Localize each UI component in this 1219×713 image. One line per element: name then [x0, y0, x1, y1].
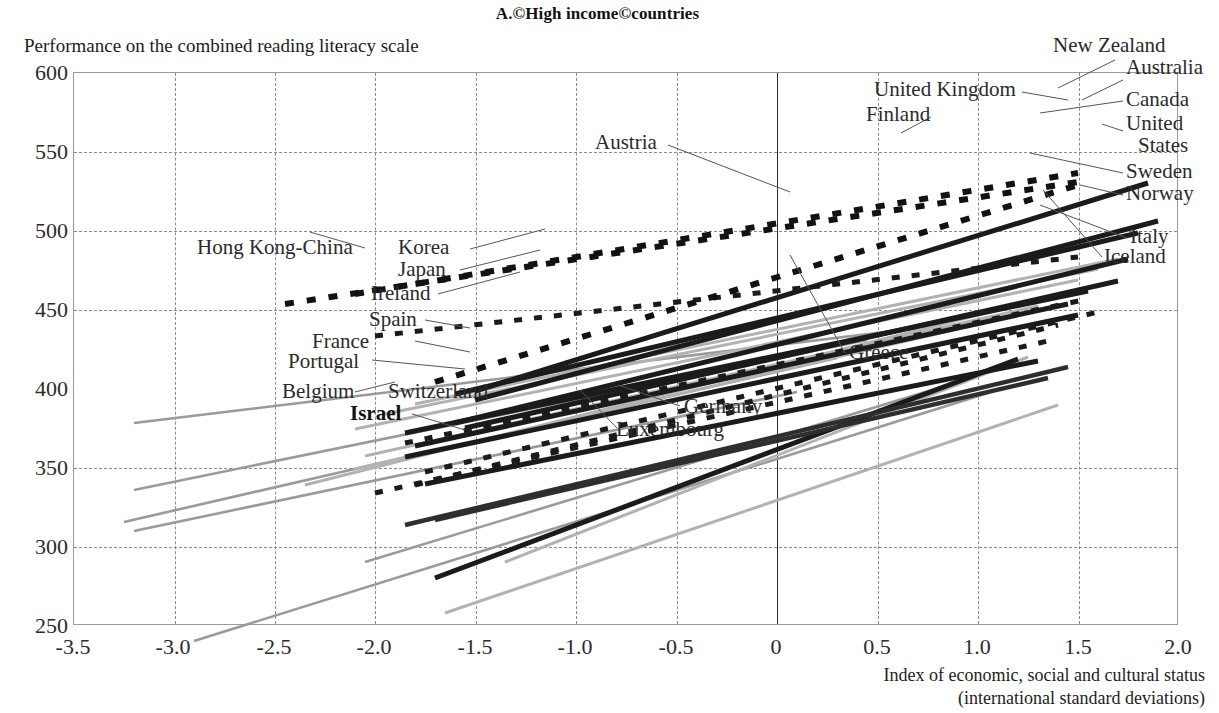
x-tick--1.0: -1.0	[535, 634, 615, 660]
label-finland: Finland	[866, 103, 930, 125]
label-united-kingdom: United Kingdom	[874, 78, 1016, 100]
label-sweden: Sweden	[1126, 160, 1193, 182]
line-germany	[505, 357, 1028, 562]
line-australia	[475, 221, 1158, 400]
label-belgium: Belgium	[282, 380, 354, 402]
line-united-kingdom	[435, 185, 1078, 382]
y-tick-400: 400	[6, 376, 68, 402]
y-tick-450: 450	[6, 297, 68, 323]
series-lines: .sd{stroke:#1b1b1b;stroke-width:5;stroke…	[74, 73, 1179, 626]
label-canada: Canada	[1126, 88, 1189, 110]
x-tick--3.5: -3.5	[33, 634, 113, 660]
x-axis-caption-line2: (international standard deviations)	[958, 688, 1205, 709]
line-unlabelled-5	[365, 376, 978, 562]
label-austria: Austria	[595, 131, 657, 153]
label-united-states-line1: United	[1126, 112, 1183, 134]
chart-subtitle: Performance on the combined reading lite…	[24, 35, 419, 57]
label-greece: Greece	[849, 341, 908, 363]
x-axis-caption-line1: Index of economic, social and cultural s…	[884, 665, 1205, 686]
panel-title-text: A.©High income©countries	[496, 4, 699, 24]
label-israel: Israel	[350, 402, 401, 424]
label-australia: Australia	[1126, 56, 1203, 78]
label-iceland: Iceland	[1104, 245, 1166, 267]
x-tick-1.5: 1.5	[1038, 634, 1118, 660]
label-switzerland: Switzerland	[388, 380, 488, 402]
x-tick--2.5: -2.5	[234, 634, 314, 660]
panel-title: A.©High income©countries	[0, 4, 1219, 24]
x-tick-2.0: 2.0	[1138, 634, 1218, 660]
label-japan: Japan	[398, 258, 446, 280]
label-norway: Norway	[1126, 182, 1194, 204]
y-tick-250: 250	[6, 613, 68, 639]
label-united-states-line2: States	[1138, 134, 1188, 156]
label-portugal: Portugal	[288, 350, 359, 372]
y-tick-350: 350	[6, 455, 68, 481]
label-new-zealand: New Zealand	[1053, 34, 1166, 56]
label-hong-kong-china: Hong Kong-China	[197, 236, 353, 258]
line-israel	[435, 359, 1018, 578]
x-tick--1.5: -1.5	[435, 634, 515, 660]
x-tick--2.0: -2.0	[334, 634, 414, 660]
x-tick-0.5: 0.5	[837, 634, 917, 660]
label-germany: Germany	[684, 395, 762, 417]
label-ireland: Ireland	[371, 282, 430, 304]
y-tick-600: 600	[6, 60, 68, 86]
y-tick-500: 500	[6, 218, 68, 244]
line-sweden	[465, 281, 1118, 428]
x-tick-1.0: 1.0	[937, 634, 1017, 660]
chart-root: A.©High income©countries Performance on …	[0, 0, 1219, 713]
plot-area: .sd{stroke:#1b1b1b;stroke-width:5;stroke…	[73, 72, 1178, 625]
y-tick-300: 300	[6, 534, 68, 560]
x-tick--0.5: -0.5	[636, 634, 716, 660]
x-tick-0: 0	[736, 634, 816, 660]
label-luxembourg: Luxembourg	[616, 418, 724, 440]
label-korea: Korea	[398, 236, 449, 258]
y-tick-550: 550	[6, 139, 68, 165]
label-spain: Spain	[369, 308, 417, 330]
